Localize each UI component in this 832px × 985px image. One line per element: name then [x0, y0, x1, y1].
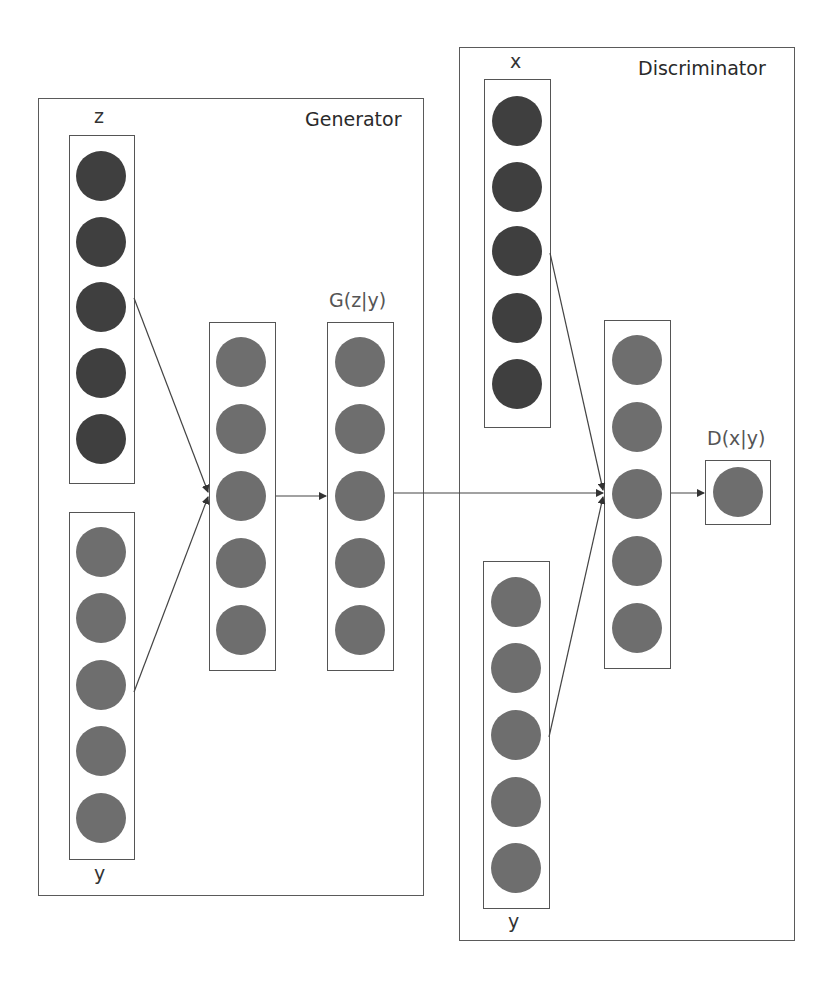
generator-y-node — [76, 593, 126, 643]
generator-y-node — [76, 793, 126, 843]
discriminator-y-node — [491, 710, 541, 760]
generator-hidden-node — [216, 337, 266, 387]
generator-y-label: y — [94, 862, 105, 884]
generator-output-label: G(z|y) — [329, 289, 386, 311]
discriminator-title: Discriminator — [638, 57, 766, 79]
z-layer — [69, 135, 135, 484]
discriminator-hidden-node — [612, 536, 662, 586]
generator-hidden-node — [216, 605, 266, 655]
z-node — [76, 414, 126, 464]
discriminator-hidden-node — [612, 603, 662, 653]
generator-output-node — [335, 538, 385, 588]
x-layer — [484, 79, 551, 428]
x-node — [492, 293, 542, 343]
generator-output-layer — [327, 322, 394, 671]
generator-y-node — [76, 527, 126, 577]
generator-hidden-node — [216, 471, 266, 521]
z-node — [76, 348, 126, 398]
discriminator-y-node — [491, 777, 541, 827]
generator-y-node — [76, 726, 126, 776]
x-node — [492, 162, 542, 212]
generator-title: Generator — [305, 108, 401, 130]
generator-y-layer — [69, 512, 135, 860]
discriminator-hidden-node — [612, 335, 662, 385]
discriminator-y-node — [491, 577, 541, 627]
x-node — [492, 359, 542, 409]
discriminator-y-label: y — [508, 910, 519, 932]
discriminator-hidden-node — [612, 469, 662, 519]
generator-output-node — [335, 337, 385, 387]
discriminator-output-node — [713, 467, 763, 517]
generator-hidden-layer — [209, 322, 276, 671]
discriminator-output-label: D(x|y) — [707, 427, 765, 449]
generator-output-node — [335, 471, 385, 521]
discriminator-y-layer — [483, 561, 550, 909]
z-node — [76, 217, 126, 267]
discriminator-y-node — [491, 843, 541, 893]
discriminator-y-node — [491, 643, 541, 693]
z-node — [76, 151, 126, 201]
generator-hidden-node — [216, 404, 266, 454]
generator-hidden-node — [216, 538, 266, 588]
z-label: z — [94, 105, 104, 127]
discriminator-hidden-node — [612, 402, 662, 452]
z-node — [76, 282, 126, 332]
generator-output-node — [335, 605, 385, 655]
discriminator-hidden-layer — [604, 320, 671, 669]
x-label: x — [510, 50, 521, 72]
x-node — [492, 226, 542, 276]
discriminator-output-layer — [705, 460, 771, 525]
generator-y-node — [76, 660, 126, 710]
x-node — [492, 96, 542, 146]
generator-output-node — [335, 404, 385, 454]
